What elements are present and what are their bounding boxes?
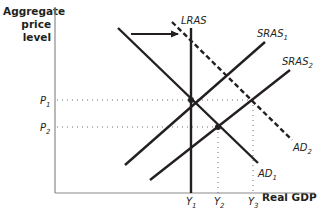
equilibrium-point-2 xyxy=(215,124,221,130)
sras1-label: SRAS1 xyxy=(257,28,288,42)
sras2-label: SRAS2 xyxy=(282,56,313,70)
equilibrium-point-1 xyxy=(188,97,194,103)
p2-label: P2 xyxy=(40,122,51,136)
lras-label: LRAS xyxy=(181,15,207,26)
ad2-label: AD2 xyxy=(292,142,313,156)
y2-label: Y2 xyxy=(214,196,225,210)
y1-label: Y1 xyxy=(186,196,197,210)
y3-label: Y3 xyxy=(248,196,259,210)
ad1-curve xyxy=(118,28,258,163)
ad-as-diagram: LRAS SRAS1 SRAS2 AD2 AD1 P1 P2 Y1 Y2 Y3 xyxy=(0,0,324,212)
p1-label: P1 xyxy=(40,95,51,109)
ad1-label: AD1 xyxy=(257,168,277,182)
